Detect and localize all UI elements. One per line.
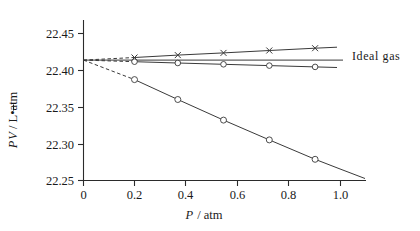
x-tick-label-0.8: 0.8 xyxy=(281,188,297,202)
y-tick-label-22.30: 22.30 xyxy=(46,138,74,152)
svg-text:P/ atm: P/ atm xyxy=(185,208,223,222)
x-tick-label-0.4: 0.4 xyxy=(178,188,194,202)
annotation-ideal-gas: Ideal gas xyxy=(352,49,400,63)
x-axis-ticks xyxy=(84,181,341,187)
y-axis-title-p: P xyxy=(6,140,20,149)
x-axis-title-unit: / atm xyxy=(197,208,223,222)
x-axis-title: P/ atm xyxy=(185,208,223,222)
chart-figure: 22.45 22.40 22.35 22.30 22.25 0 0.2 0.4 … xyxy=(0,0,420,231)
svg-text:PV/ L•atm: PV/ L•atm xyxy=(6,91,20,149)
y-tick-label-22.45: 22.45 xyxy=(46,27,74,41)
series-co2 xyxy=(84,60,366,178)
chart-svg: 22.45 22.40 22.35 22.30 22.25 0 0.2 0.4 … xyxy=(0,0,420,231)
x-tick-label-1.0: 1.0 xyxy=(333,188,349,202)
y-tick-label-22.35: 22.35 xyxy=(46,101,74,115)
x-tick-label-0: 0 xyxy=(80,188,86,202)
y-tick-label-22.25: 22.25 xyxy=(46,174,74,188)
y-tick-label-22.40: 22.40 xyxy=(46,64,74,78)
y-axis-ticks xyxy=(78,34,84,181)
x-axis-title-symbol: P xyxy=(185,208,194,222)
x-tick-label-0.6: 0.6 xyxy=(230,188,246,202)
x-tick-label-0.2: 0.2 xyxy=(127,188,143,202)
series-h2 xyxy=(84,45,338,60)
y-axis-title: PV/ L•atm xyxy=(6,91,20,149)
y-axis-title-v: V xyxy=(6,131,20,140)
series-co2-markers xyxy=(132,77,319,163)
